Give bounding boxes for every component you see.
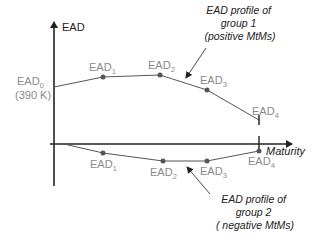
group1-point-2: [158, 73, 163, 78]
group2-point-1: [101, 151, 106, 156]
group1-label-1: EAD1: [89, 61, 116, 76]
y-axis-label: EAD: [62, 21, 85, 33]
x-axis-label: Maturity: [266, 145, 307, 157]
group1-label-3: EAD3: [200, 74, 227, 89]
group1-annotation: EAD profile of group 1 (positive MtMs): [204, 4, 275, 42]
group1-point-1: [101, 75, 106, 80]
group2-annotation: EAD profile of group 2 ( negative MtMs): [216, 193, 294, 231]
group2-label-3: EAD3: [200, 165, 227, 180]
group1-label-2: EAD2: [148, 59, 175, 74]
group2-point-3: [205, 159, 210, 164]
group2-point-2: [161, 159, 166, 164]
group2-label-4: EAD4: [248, 155, 275, 170]
ead0-value: (390 K): [15, 89, 51, 101]
group2-label-1: EAD1: [90, 158, 117, 173]
ead0-label: EAD0: [17, 75, 44, 90]
ead-profile-diagram: EAD Maturity EAD0 (390 K) EAD1 EAD2 EAD3…: [0, 0, 320, 243]
group2-point-4: [257, 149, 262, 154]
group2-label-2: EAD2: [150, 166, 177, 181]
group1-profile-line: [54, 75, 259, 120]
group1-point-3: [205, 88, 210, 93]
